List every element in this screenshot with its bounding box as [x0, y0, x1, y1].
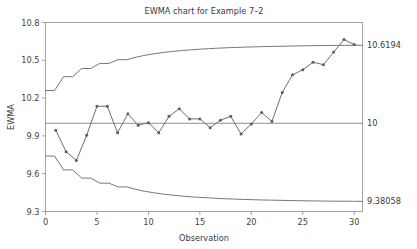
data-point: [116, 131, 119, 134]
data-point: [312, 61, 315, 64]
x-tick-label: 0: [43, 217, 48, 227]
ewma-series-line: [56, 40, 354, 161]
y-tick-label: 9.9: [26, 131, 39, 141]
lower-control-limit-line: [46, 156, 363, 201]
y-axis-ticks: 9.39.69.910.210.510.8: [21, 18, 45, 217]
data-point: [301, 68, 304, 71]
data-point: [157, 131, 160, 134]
data-point: [342, 38, 345, 41]
data-point: [95, 105, 98, 108]
lower-limit-label: 9.38058: [367, 196, 401, 206]
data-point: [240, 133, 243, 136]
x-tick-label: 20: [246, 217, 256, 227]
y-tick-label: 9.6: [26, 169, 39, 179]
data-point: [137, 124, 140, 127]
data-point: [188, 117, 191, 120]
center-limit-label: 10: [367, 118, 377, 128]
x-tick-label: 10: [143, 217, 153, 227]
data-point: [85, 134, 88, 137]
x-axis-ticks: 051015202530: [43, 212, 360, 227]
data-point: [168, 115, 171, 118]
data-point: [106, 105, 109, 108]
data-point: [178, 107, 181, 110]
chart-title: EWMA chart for Example 7–2: [145, 6, 264, 16]
x-tick-label: 15: [195, 217, 205, 227]
y-tick-label: 10.2: [21, 93, 39, 103]
ewma-control-chart: EWMA chart for Example 7–2 9.39.69.910.2…: [0, 0, 417, 249]
x-tick-label: 5: [94, 217, 99, 227]
y-tick-label: 9.3: [26, 207, 39, 217]
data-point: [54, 129, 57, 132]
y-tick-label: 10.5: [21, 55, 39, 65]
data-point: [322, 63, 325, 66]
data-point: [291, 73, 294, 76]
data-point: [219, 119, 222, 122]
data-point: [332, 51, 335, 54]
data-point: [250, 122, 253, 125]
x-tick-label: 30: [349, 217, 359, 227]
data-point: [147, 121, 150, 124]
data-point: [198, 117, 201, 120]
data-point: [65, 150, 68, 153]
upper-limit-label: 10.6194: [367, 40, 401, 50]
data-point: [281, 91, 284, 94]
data-point: [260, 111, 263, 114]
ewma-series-markers: [54, 38, 355, 162]
chart-canvas: EWMA chart for Example 7–2 9.39.69.910.2…: [0, 0, 417, 249]
data-point: [353, 43, 356, 46]
data-point: [270, 120, 273, 123]
data-point: [126, 112, 129, 115]
data-point: [209, 126, 212, 129]
x-axis-title: Observation: [179, 233, 229, 243]
y-axis-title: EWMA: [6, 104, 16, 130]
data-point: [229, 115, 232, 118]
upper-control-limit-line: [46, 45, 363, 90]
data-point: [75, 159, 78, 162]
y-tick-label: 10.8: [21, 18, 39, 28]
x-tick-label: 25: [298, 217, 308, 227]
